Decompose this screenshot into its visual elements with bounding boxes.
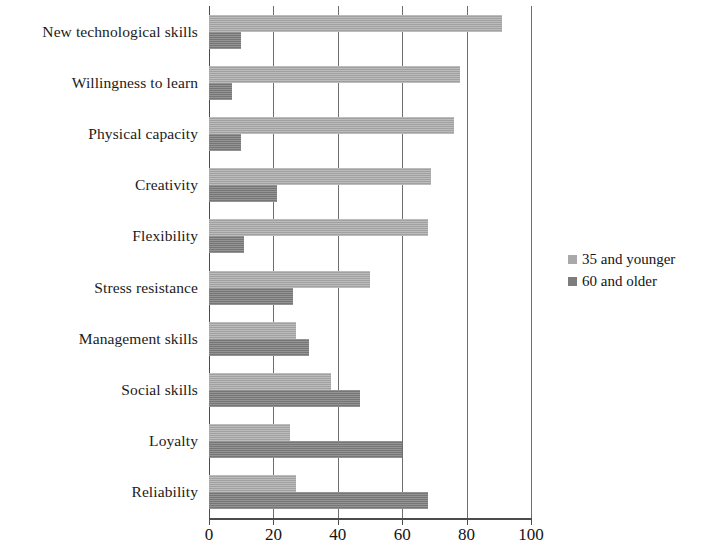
bar-older (209, 32, 241, 49)
bar-older (209, 441, 402, 458)
bar-younger (209, 15, 502, 32)
bar-younger (209, 373, 331, 390)
tickmark-80 (467, 518, 468, 525)
bar-group (209, 322, 531, 356)
x-tick-label-100: 100 (518, 525, 544, 545)
category-label-1: New technological skills (0, 23, 198, 40)
bar-younger (209, 271, 370, 288)
bar-chart: New technological skillsWillingness to l… (0, 0, 708, 556)
bar-older (209, 185, 277, 202)
bar-group (209, 219, 531, 253)
x-axis-line (209, 518, 531, 520)
category-label-8: Social skills (0, 381, 198, 398)
bar-group (209, 475, 531, 509)
bar-younger (209, 219, 428, 236)
bar-older (209, 236, 244, 253)
category-label-2: Willingness to learn (0, 74, 198, 91)
bar-older (209, 492, 428, 509)
bar-group (209, 117, 531, 151)
category-axis: New technological skillsWillingness to l… (0, 0, 203, 518)
legend-entry-2: 60 and older (568, 270, 706, 292)
category-label-4: Creativity (0, 176, 198, 193)
bar-older (209, 288, 293, 305)
bar-group (209, 424, 531, 458)
bar-group (209, 15, 531, 49)
tickmark-100 (531, 518, 532, 525)
bar-younger (209, 117, 454, 134)
bar-older (209, 339, 309, 356)
category-label-9: Loyalty (0, 432, 198, 449)
category-label-3: Physical capacity (0, 125, 198, 142)
tickmark-40 (338, 518, 339, 525)
legend-swatch-icon (568, 255, 577, 264)
x-tick-label-40: 40 (329, 525, 346, 545)
bar-older (209, 134, 241, 151)
bar-older (209, 83, 232, 100)
bar-younger (209, 475, 296, 492)
category-label-10: Reliability (0, 483, 198, 500)
category-label-6: Stress resistance (0, 279, 198, 296)
legend-swatch-icon (568, 277, 577, 286)
x-tick-label-60: 60 (394, 525, 411, 545)
bar-younger (209, 168, 431, 185)
bar-younger (209, 66, 460, 83)
tickmark-20 (273, 518, 274, 525)
bar-group (209, 271, 531, 305)
tickmark-60 (402, 518, 403, 525)
bar-group (209, 373, 531, 407)
bar-group (209, 66, 531, 100)
plot-area (209, 6, 531, 518)
legend-label: 35 and younger (582, 251, 675, 268)
bar-group (209, 168, 531, 202)
category-label-7: Management skills (0, 330, 198, 347)
legend-label: 60 and older (582, 273, 657, 290)
category-label-5: Flexibility (0, 227, 198, 244)
x-tick-label-0: 0 (205, 525, 214, 545)
tickmark-0 (209, 518, 210, 525)
bar-younger (209, 322, 296, 339)
x-tick-label-80: 80 (458, 525, 475, 545)
bar-older (209, 390, 360, 407)
bar-younger (209, 424, 290, 441)
x-tick-label-20: 20 (265, 525, 282, 545)
gridline-100 (531, 6, 532, 518)
x-axis-tick-labels: 020406080100 (209, 525, 549, 553)
legend: 35 and younger60 and older (568, 248, 706, 292)
legend-entry-1: 35 and younger (568, 248, 706, 270)
